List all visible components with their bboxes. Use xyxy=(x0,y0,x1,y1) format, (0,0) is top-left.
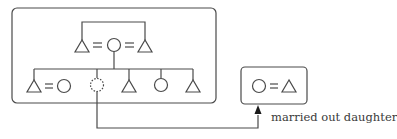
marriage-sign-icon xyxy=(93,43,102,47)
male-icon xyxy=(138,40,152,52)
male-icon xyxy=(282,80,296,92)
female-icon xyxy=(108,39,121,52)
female-icon xyxy=(253,80,266,93)
male-icon xyxy=(186,80,200,92)
sibling-bracket-top xyxy=(82,22,145,40)
female-icon xyxy=(155,79,168,92)
arrow-up-icon xyxy=(255,105,262,114)
female-icon xyxy=(58,80,71,93)
marriage-sign-icon xyxy=(270,84,278,88)
male-icon xyxy=(27,80,41,92)
married-out-box xyxy=(241,67,307,104)
married-out-daughter-icon xyxy=(91,79,104,92)
caption-label: married out daughter xyxy=(271,110,397,124)
male-icon xyxy=(122,80,136,92)
marriage-sign-icon xyxy=(125,43,134,47)
married-out-path xyxy=(97,92,258,129)
marriage-sign-icon xyxy=(45,84,53,88)
male-icon xyxy=(75,40,89,52)
